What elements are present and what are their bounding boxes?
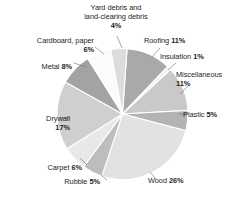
slice-value-carpet: 6% <box>71 163 82 172</box>
slice-label-yard-debris-line2: land-clearing debris <box>84 12 148 21</box>
slice-label-yard-debris-line1: Yard debris and <box>91 3 142 12</box>
slice-label-plastic-text: Plastic <box>183 110 206 119</box>
slice-label-drywall: Drywall 17% <box>6 114 70 132</box>
pie-chart-canvas <box>0 0 250 205</box>
slice-value-miscellaneous: 11% <box>176 79 190 88</box>
slice-label-roofing: Roofing 11% <box>144 36 218 45</box>
slice-label-insulation: Insulation 1% <box>160 52 248 61</box>
slice-value-yard-debris: 4% <box>111 21 122 30</box>
slice-value-drywall: 17% <box>55 123 70 132</box>
slice-label-cardboard-paper: Cardboard, paper 6% <box>2 36 94 54</box>
slice-label-plastic: Plastic 5% <box>183 110 249 119</box>
leader-line-roofing <box>152 48 160 57</box>
slice-label-yard-debris: Yard debris and land-clearing debris 4% <box>62 3 170 31</box>
slice-value-cardboard-paper: 6% <box>83 45 94 54</box>
slice-label-carpet-text: Carpet <box>48 163 72 172</box>
slice-label-wood: Wood 26% <box>148 176 218 185</box>
slice-value-rubble: 5% <box>89 177 100 186</box>
slice-value-plastic: 5% <box>206 110 217 119</box>
leader-line-insulation <box>168 63 176 70</box>
slice-label-cardboard-paper-text: Cardboard, paper <box>37 36 94 45</box>
leader-line-yard <box>117 36 122 48</box>
slice-label-rubble: Rubble 5% <box>34 177 100 186</box>
slice-label-metal: Metal 8% <box>10 62 72 71</box>
slice-label-carpet: Carpet 6% <box>16 163 82 172</box>
slice-label-miscellaneous: Miscellaneous 11% <box>176 70 246 88</box>
slice-label-metal-text: Metal <box>42 62 62 71</box>
slice-value-wood: 26% <box>169 176 184 185</box>
slice-label-insulation-text: Insulation <box>160 52 193 61</box>
slice-label-wood-text: Wood <box>148 176 169 185</box>
pie-slices-group <box>57 49 188 180</box>
slice-value-metal: 8% <box>61 62 72 71</box>
slice-label-roofing-text: Roofing <box>144 36 171 45</box>
pie-chart-figure: Yard debris and land-clearing debris 4% … <box>0 0 250 205</box>
slice-value-roofing: 11% <box>171 36 185 45</box>
slice-label-miscellaneous-text: Miscellaneous <box>176 70 222 79</box>
slice-value-insulation: 1% <box>193 52 204 61</box>
slice-label-drywall-text: Drywall <box>46 114 70 123</box>
slice-label-rubble-text: Rubble <box>64 177 89 186</box>
